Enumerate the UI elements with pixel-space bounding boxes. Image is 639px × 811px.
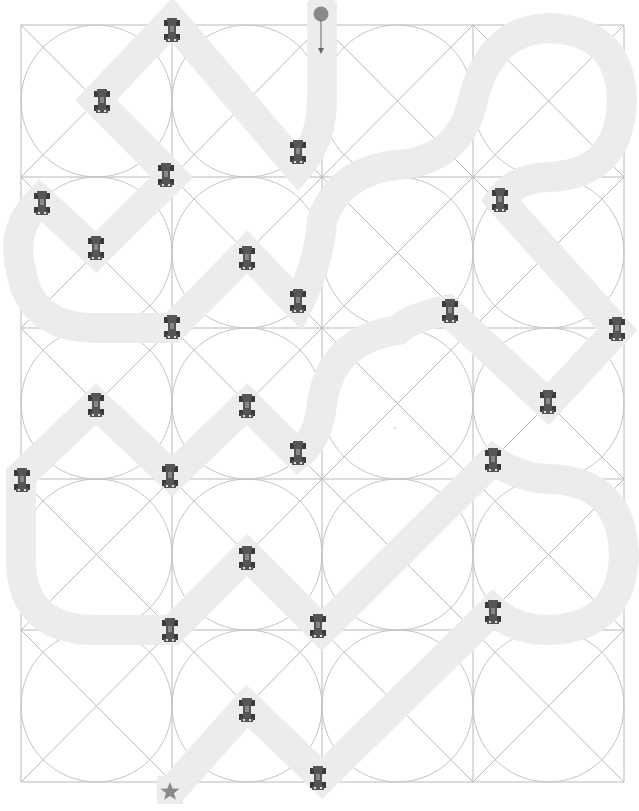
race-track (18, 2, 624, 790)
finish-marker (157, 776, 183, 804)
race-track-board (0, 0, 639, 811)
faint-dot (394, 427, 396, 429)
circle-start-icon (314, 7, 329, 22)
